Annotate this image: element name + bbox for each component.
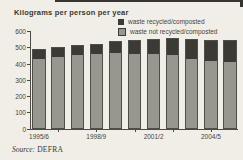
bar-segment-recycled	[129, 41, 140, 54]
bar-segment-recycled	[224, 41, 235, 62]
stacked-bar-2000-01	[128, 40, 141, 129]
y-tick-label: 300	[8, 77, 26, 84]
bar-segment-recycled	[110, 42, 121, 53]
stacked-bar-2004-5	[204, 40, 217, 129]
source-value: DEFRA	[37, 145, 63, 154]
chart-legend: waste recycled/composted waste not recyc…	[118, 18, 217, 38]
bar-segment-not-recycled	[33, 59, 44, 129]
bar-segment-recycled	[148, 40, 159, 55]
x-tick-mark	[135, 129, 136, 132]
x-tick-label: 1998/9	[81, 133, 111, 141]
y-tick-mark	[27, 80, 30, 81]
chart-title: Kilograms per person per year	[14, 8, 129, 17]
bar-segment-recycled	[186, 40, 197, 59]
bar-segment-recycled	[33, 50, 44, 58]
bar-segment-not-recycled	[110, 53, 121, 128]
bar-segment-recycled	[52, 48, 63, 57]
scan-corner-artifact	[240, 0, 243, 7]
y-tick-mark	[27, 112, 30, 113]
legend-swatch-recycled-icon	[118, 19, 124, 25]
bar-segment-not-recycled	[72, 55, 83, 128]
y-tick-mark	[27, 96, 30, 97]
x-tick-label: 2001/2	[139, 133, 169, 141]
y-tick-label: 0	[8, 126, 26, 133]
y-axis-line	[30, 31, 31, 129]
bar-segment-not-recycled	[167, 55, 178, 128]
y-tick-mark	[27, 64, 30, 65]
bar-segment-recycled	[167, 39, 178, 55]
bar-segment-not-recycled	[91, 54, 102, 128]
stacked-bar-1996-7	[51, 47, 64, 129]
x-tick-mark	[96, 129, 97, 132]
legend-swatch-not-recycled-icon	[118, 28, 126, 36]
y-tick-mark	[27, 31, 30, 32]
stacked-bar-2002-3	[166, 38, 179, 129]
stacked-bar-2001-2	[147, 39, 160, 129]
stacked-bar-2005-6	[223, 40, 236, 129]
y-tick-mark	[27, 47, 30, 48]
x-tick-label: 2004/5	[196, 133, 226, 141]
stacked-bar-1998-9	[90, 44, 103, 129]
legend-item-not-recycled: waste not recycled/composted	[118, 28, 217, 36]
x-tick-mark	[173, 129, 174, 132]
source-line: Source: DEFRA	[12, 145, 63, 154]
bar-segment-not-recycled	[186, 59, 197, 129]
scan-edge-artifact	[55, 0, 243, 2]
stacked-bar-1999-00	[109, 41, 122, 129]
y-tick-mark	[27, 129, 30, 130]
bar-segment-recycled	[91, 45, 102, 55]
x-tick-label: 1995/6	[24, 133, 54, 141]
bar-segment-not-recycled	[52, 57, 63, 128]
bar-segment-recycled	[205, 41, 216, 61]
bar-segment-not-recycled	[148, 54, 159, 128]
x-tick-mark	[211, 129, 212, 132]
bar-segment-recycled	[72, 46, 83, 55]
stacked-bar-1995-6	[32, 49, 45, 129]
y-tick-label: 600	[8, 28, 26, 35]
x-tick-mark	[58, 129, 59, 132]
legend-label-not-recycled: waste not recycled/composted	[130, 28, 217, 35]
legend-item-recycled: waste recycled/composted	[118, 18, 217, 25]
y-tick-label: 200	[8, 93, 26, 100]
y-tick-label: 500	[8, 44, 26, 51]
bar-segment-not-recycled	[224, 62, 235, 128]
y-tick-label: 100	[8, 109, 26, 116]
y-tick-label: 400	[8, 61, 26, 68]
stacked-bar-2003-4	[185, 39, 198, 129]
waste-chart-page: Kilograms per person per year waste recy…	[0, 0, 243, 160]
bar-segment-not-recycled	[129, 54, 140, 128]
bar-segment-not-recycled	[205, 61, 216, 128]
stacked-bar-1997-8	[71, 45, 84, 129]
legend-label-recycled: waste recycled/composted	[128, 18, 205, 25]
source-prefix: Source:	[12, 145, 35, 154]
